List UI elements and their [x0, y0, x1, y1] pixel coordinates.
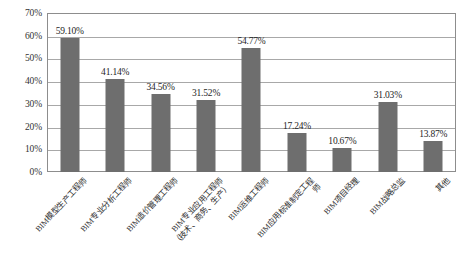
- bar: [60, 38, 79, 172]
- bar-value-label: 54.77%: [237, 36, 265, 47]
- bar-value-label: 41.14%: [101, 67, 129, 78]
- bar-group: 17.24%: [274, 13, 319, 172]
- bar: [378, 102, 397, 172]
- bar-value-label: 31.52%: [192, 88, 220, 99]
- bar-chart: 70%60%50%40%30%20%10%0% 59.10%41.14%34.5…: [0, 0, 471, 261]
- bar-value-label: 17.24%: [283, 121, 311, 132]
- bar: [106, 79, 125, 172]
- y-axis-tick: 10%: [0, 144, 42, 154]
- bar-group: 31.52%: [183, 13, 228, 172]
- bars-layer: 59.10%41.14%34.56%31.52%54.77%17.24%10.6…: [47, 13, 456, 172]
- bar-value-label: 31.03%: [374, 90, 402, 101]
- x-axis-label: 其他: [418, 176, 452, 212]
- bar-value-label: 59.10%: [56, 26, 84, 37]
- bar-group: 41.14%: [92, 13, 137, 172]
- y-axis-tick: 20%: [0, 122, 42, 132]
- bar-group: 54.77%: [229, 13, 274, 172]
- bar-group: 10.67%: [320, 13, 365, 172]
- bar-value-label: 13.87%: [419, 129, 447, 140]
- y-axis-tick: 70%: [0, 8, 42, 18]
- y-axis-tick: 60%: [0, 31, 42, 41]
- bar: [197, 100, 216, 172]
- bar: [424, 141, 443, 173]
- x-axis: BIM模型生产工程师BIM专业分析工程师BIM造价管理工程师BIM专业应用工程师…: [47, 174, 456, 261]
- y-axis-tick: 40%: [0, 76, 42, 86]
- y-axis: 70%60%50%40%30%20%10%0%: [0, 8, 45, 178]
- bar: [333, 148, 352, 172]
- bar-value-label: 10.67%: [328, 136, 356, 147]
- bar-group: 31.03%: [365, 13, 410, 172]
- bar-group: 34.56%: [138, 13, 183, 172]
- y-axis-tick: 30%: [0, 99, 42, 109]
- bar-group: 59.10%: [47, 13, 92, 172]
- bar-value-label: 34.56%: [147, 82, 175, 93]
- y-axis-tick: 50%: [0, 53, 42, 63]
- y-axis-tick: 0%: [0, 167, 42, 177]
- bar: [242, 48, 261, 172]
- bar: [151, 94, 170, 173]
- bar-group: 13.87%: [411, 13, 456, 172]
- bar: [287, 133, 306, 172]
